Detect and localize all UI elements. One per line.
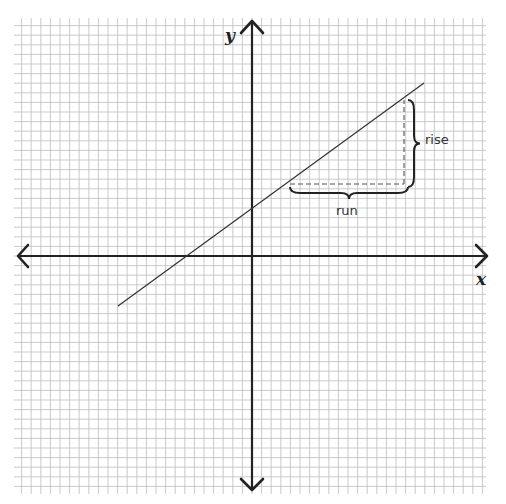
run-label: run [336,203,358,218]
y-axis-label: y [224,25,236,45]
coordinate-plane-diagram: y x rise run [0,0,506,504]
rise-label: rise [425,132,449,147]
rise-brace-icon [408,100,420,187]
x-axis-label: x [475,269,487,289]
